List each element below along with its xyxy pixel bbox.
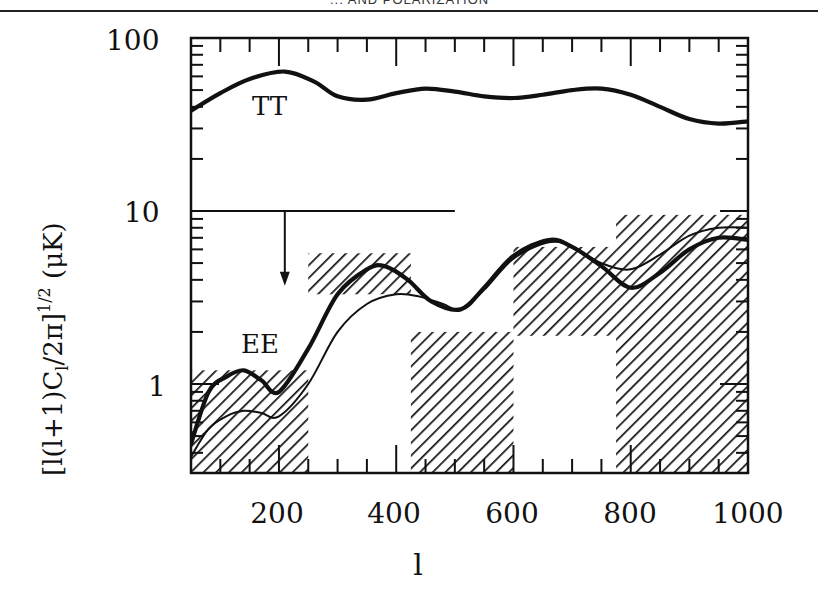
hatched-box-3 (411, 332, 514, 472)
tt-label: TT (252, 91, 288, 121)
power-spectrum-chart: TT EE 100 10 1 200 400 600 800 1000 l [l… (0, 0, 818, 598)
y-tick-labels: 100 10 1 (106, 24, 166, 403)
hatched-box-4 (513, 247, 616, 336)
x-tick-400: 400 (367, 497, 420, 530)
y-label-unit: (μK) (38, 222, 68, 287)
down-arrow-icon (280, 272, 290, 286)
y-tick-10: 10 (124, 196, 160, 229)
x-tick-600: 600 (485, 497, 538, 530)
hatched-box-1 (191, 370, 308, 472)
x-tick-200: 200 (250, 497, 303, 530)
y-label-mid: /2π] (38, 313, 68, 366)
svg-text:[l(l+1)Cl/2π]1/2 (μK): [l(l+1)Cl/2π]1/2 (μK) (35, 222, 72, 476)
ee-label: EE (241, 329, 279, 359)
x-tick-800: 800 (603, 497, 656, 530)
x-tick-1000: 1000 (712, 497, 783, 530)
y-tick-1: 1 (148, 370, 166, 403)
x-tick-labels: 200 400 600 800 1000 (250, 497, 783, 530)
y-axis-label: [l(l+1)Cl/2π]1/2 (μK) (35, 222, 72, 476)
x-axis-label: l (413, 547, 423, 582)
y-tick-100: 100 (106, 24, 159, 57)
y-label-sup: 1/2 (35, 287, 54, 313)
y-label-main: [l(l+1)C (38, 371, 68, 476)
